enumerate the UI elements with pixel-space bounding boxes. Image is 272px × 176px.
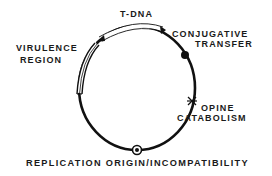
virulence-label-line1: VIRULENCE	[16, 43, 78, 53]
conjugative-label-line1: CONJUGATIVE	[172, 29, 248, 39]
plasmid-map: T-DNA VIRULENCE REGION CONJUGATIVE TRANS…	[0, 0, 272, 176]
virulence-label-line2: REGION	[20, 55, 62, 65]
virulence-band	[77, 43, 99, 94]
origin-label: REPLICATION ORIGIN/INCOMPATIBILITY	[26, 158, 249, 168]
conjugative-transfer-marker-icon	[181, 51, 189, 59]
conjugative-label-line2: TRANSFER	[195, 39, 253, 49]
t-dna-label: T-DNA	[120, 9, 153, 19]
opine-label-line2: CATABOLISM	[177, 113, 247, 123]
opine-label-line1: OPINE	[201, 103, 235, 113]
origin-marker-icon	[133, 146, 142, 155]
